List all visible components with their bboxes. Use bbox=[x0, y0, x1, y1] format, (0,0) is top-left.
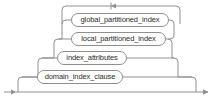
node-domain-index-clause-label: domain_index_clause bbox=[45, 73, 116, 81]
rail-left-level1 bbox=[62, 20, 71, 39]
node-local-partitioned-index-label: local_partitioned_index bbox=[81, 35, 155, 43]
node-global-partitioned-index-label: global_partitioned_index bbox=[81, 16, 160, 24]
node-local-partitioned-index[interactable]: local_partitioned_index bbox=[71, 32, 166, 46]
node-index-attributes-label: index_attributes bbox=[66, 54, 117, 62]
node-domain-index-clause[interactable]: domain_index_clause bbox=[37, 70, 123, 84]
node-index-attributes[interactable]: index_attributes bbox=[57, 51, 127, 65]
rail-right-level1 bbox=[168, 20, 174, 39]
rail-left-level4 bbox=[18, 77, 37, 92]
entry-arrow-icon bbox=[11, 89, 16, 95]
rail-right-level4 bbox=[123, 77, 196, 92]
rail-right-level3 bbox=[127, 58, 178, 77]
loopback-arrow-icon bbox=[111, 3, 116, 8]
railroad-diagram: global_partitioned_index local_partition… bbox=[0, 0, 220, 102]
exit-arrow-icon bbox=[203, 89, 209, 95]
rail-right-level2 bbox=[166, 39, 172, 58]
node-global-partitioned-index[interactable]: global_partitioned_index bbox=[71, 13, 169, 27]
